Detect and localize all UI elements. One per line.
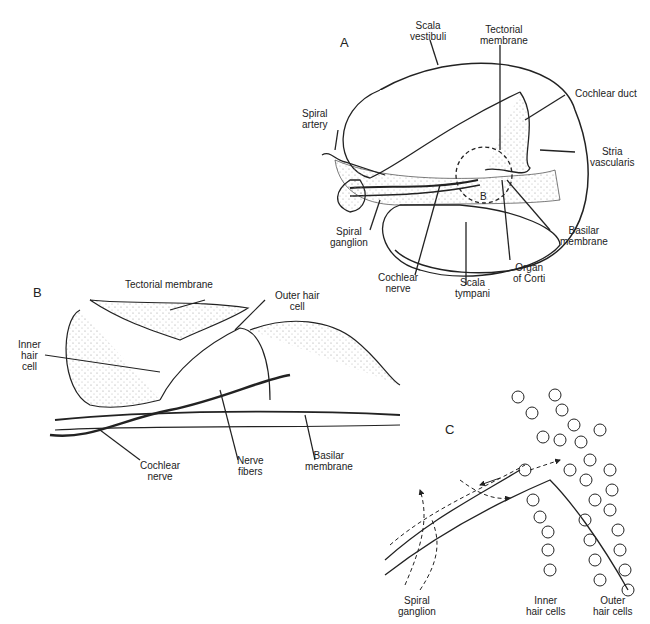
panel-a-letter: A [340,35,349,50]
panel-b-letter: B [33,285,42,300]
hair-cell-circles [512,389,634,596]
label-stria-vascularis: Striavascularis [590,146,634,168]
label-scala-tympani: Scalatympani [455,277,490,299]
label-scala-vestibuli: Scalavestibuli [410,20,446,42]
label-outer-hair-cell: Outer haircell [275,290,319,312]
label-tectorial-membrane-a: Tectorialmembrane [480,24,528,46]
label-inner-hair-cells: Innerhair cells [526,595,565,617]
panel-b-drawing [45,300,400,460]
label-spiral-ganglion-c: Spiralganglion [398,595,436,617]
label-spiral-artery: Spiralartery [302,108,328,130]
label-nerve-fibers: Nervefibers [237,455,264,477]
label-spiral-ganglion-a: Spiralganglion [330,226,368,248]
label-inner-hair-cell: Innerhaircell [18,339,41,372]
label-cochlear-nerve-b: Cochlearnerve [140,460,180,482]
label-outer-hair-cells: Outerhair cells [593,595,632,617]
label-basilar-membrane-b: Basilarmembrane [305,450,353,472]
label-cochlear-nerve-a: Cochlearnerve [378,272,418,294]
cochlea-diagram [0,0,650,624]
label-tectorial-membrane-b: Tectorial membrane [125,279,213,290]
label-basilar-membrane-a: Basilarmembrane [560,225,608,247]
panel-c-drawing [385,389,634,596]
label-b-marker: B [480,191,487,202]
panel-c-letter: C [445,422,454,437]
panel-a-drawing [322,40,588,285]
label-cochlear-duct: Cochlear duct [575,88,637,99]
label-organ-of-corti: Organof Corti [513,262,545,284]
